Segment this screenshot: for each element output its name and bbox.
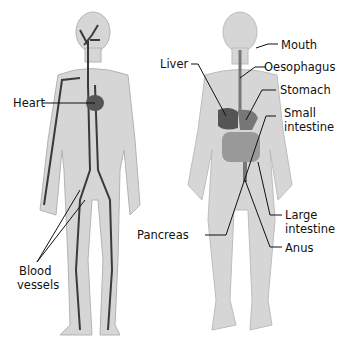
label-small-intestine-1: Small <box>284 106 316 120</box>
label-blood-vessels-2: vessels <box>17 278 59 292</box>
label-pancreas: Pancreas <box>137 228 189 242</box>
label-heart: Heart <box>13 96 45 110</box>
diagram-canvas <box>0 0 346 356</box>
label-large-intestine-1: Large <box>285 208 317 222</box>
label-large-intestine-2: intestine <box>285 222 335 236</box>
label-oesophagus: Oesophagus <box>264 60 335 74</box>
label-liver: Liver <box>160 57 188 71</box>
label-anus: Anus <box>285 241 313 255</box>
label-stomach: Stomach <box>280 83 331 97</box>
label-blood-vessels-1: Blood <box>19 264 51 278</box>
label-small-intestine-2: intestine <box>284 120 334 134</box>
label-mouth: Mouth <box>281 38 317 52</box>
